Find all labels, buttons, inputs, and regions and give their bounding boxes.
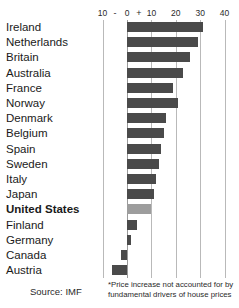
bar-britain bbox=[127, 52, 190, 62]
bar-norway bbox=[127, 98, 178, 108]
bar-row: Denmark bbox=[0, 111, 239, 127]
category-label-denmark: Denmark bbox=[6, 111, 53, 126]
x-axis-tick-labels: 10010203040-+ bbox=[0, 8, 239, 20]
category-label-united-states: United States bbox=[6, 202, 80, 217]
bar-row: France bbox=[0, 81, 239, 97]
bar-rows: IrelandNetherlandsBritainAustraliaFrance… bbox=[0, 20, 239, 278]
x-tick-label-20: 20 bbox=[171, 8, 180, 19]
bar-row: Japan bbox=[0, 187, 239, 203]
bar-row: Sweden bbox=[0, 157, 239, 173]
bar-australia bbox=[127, 68, 183, 78]
chart-footer: Source: IMF *Price increase not accounte… bbox=[0, 282, 239, 308]
bar-sweden bbox=[127, 159, 159, 169]
category-label-belgium: Belgium bbox=[6, 126, 48, 141]
category-label-austria: Austria bbox=[6, 263, 42, 278]
bar-row: Australia bbox=[0, 66, 239, 82]
x-tick-label-10: 10 bbox=[147, 8, 156, 19]
footnote-line-2: fundamental drivers of house prices bbox=[108, 290, 239, 300]
x-tick-label-neg10: 10 bbox=[98, 8, 107, 19]
bar-row: Netherlands bbox=[0, 35, 239, 51]
bar-row: Ireland bbox=[0, 20, 239, 36]
category-label-finland: Finland bbox=[6, 218, 44, 233]
category-label-italy: Italy bbox=[6, 172, 27, 187]
category-label-australia: Australia bbox=[6, 66, 51, 81]
bar-belgium bbox=[127, 128, 164, 138]
x-tick-label-30: 30 bbox=[195, 8, 204, 19]
bar-austria bbox=[112, 265, 127, 275]
category-label-spain: Spain bbox=[6, 142, 35, 157]
bar-france bbox=[127, 83, 173, 93]
category-label-ireland: Ireland bbox=[6, 20, 41, 35]
source-label: Source: IMF bbox=[30, 286, 82, 297]
bar-row: Britain bbox=[0, 50, 239, 66]
bar-canada bbox=[121, 250, 127, 260]
bar-row: United States bbox=[0, 202, 239, 218]
category-label-canada: Canada bbox=[6, 248, 46, 263]
house-price-overvaluation-chart: 10010203040-+ IrelandNetherlandsBritainA… bbox=[0, 0, 239, 308]
bar-row: Belgium bbox=[0, 126, 239, 142]
category-label-france: France bbox=[6, 81, 42, 96]
x-tick-label-40: 40 bbox=[220, 8, 229, 19]
bar-row: Finland bbox=[0, 218, 239, 234]
category-label-japan: Japan bbox=[6, 187, 37, 202]
category-label-netherlands: Netherlands bbox=[6, 35, 68, 50]
x-axis-plus-sign: + bbox=[136, 8, 141, 19]
bar-row: Norway bbox=[0, 96, 239, 112]
bar-japan bbox=[127, 189, 154, 199]
category-label-norway: Norway bbox=[6, 96, 45, 111]
category-label-sweden: Sweden bbox=[6, 157, 48, 172]
category-label-germany: Germany bbox=[6, 233, 53, 248]
bar-row: Spain bbox=[0, 142, 239, 158]
bar-denmark bbox=[127, 113, 166, 123]
category-label-britain: Britain bbox=[6, 50, 39, 65]
plot-area: IrelandNetherlandsBritainAustraliaFrance… bbox=[0, 20, 239, 278]
x-tick-label-0: 0 bbox=[125, 8, 130, 19]
bar-row: Germany bbox=[0, 233, 239, 249]
bar-netherlands bbox=[127, 37, 198, 47]
footnote: *Price increase not accounted for by fun… bbox=[108, 280, 239, 299]
bar-row: Canada bbox=[0, 248, 239, 264]
bar-ireland bbox=[127, 22, 203, 32]
bar-finland bbox=[127, 220, 137, 230]
footnote-line-1: *Price increase not accounted for by bbox=[108, 280, 239, 290]
bar-germany bbox=[127, 235, 131, 245]
cropped-chart-title bbox=[0, 0, 239, 2]
bar-row: Austria bbox=[0, 263, 239, 279]
x-axis-minus-sign: - bbox=[114, 8, 117, 19]
bar-spain bbox=[127, 144, 161, 154]
bar-italy bbox=[127, 174, 156, 184]
bar-united-states bbox=[127, 204, 151, 214]
bar-row: Italy bbox=[0, 172, 239, 188]
